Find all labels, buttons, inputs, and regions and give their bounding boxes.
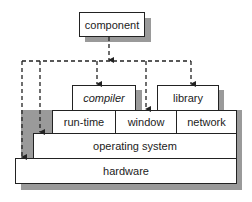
dashed-connectors bbox=[0, 0, 252, 202]
